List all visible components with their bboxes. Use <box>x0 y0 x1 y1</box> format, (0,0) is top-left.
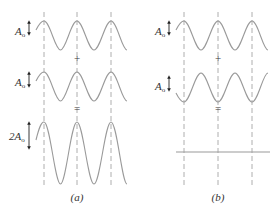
amplitude-label: Ao <box>14 76 26 90</box>
equals-operator: = <box>215 102 221 114</box>
caption-a: (a) <box>71 191 84 204</box>
panel-a: + = Ao Ao 2Ao (a) <box>9 12 127 204</box>
amplitude-label: Ao <box>154 80 166 94</box>
wave-a2 <box>36 72 127 101</box>
wave-a1 <box>36 21 127 50</box>
caption-b: (b) <box>212 191 225 204</box>
plus-operator: + <box>74 52 80 64</box>
amplitude-label: Ao <box>154 25 166 39</box>
plus-operator: + <box>215 52 221 64</box>
wave-b1 <box>176 21 268 50</box>
wave-b2 <box>176 73 268 102</box>
amplitude-label: Ao <box>14 25 26 39</box>
wave-a-sum <box>36 122 127 184</box>
equals-operator: = <box>74 102 80 114</box>
amplitude-label: 2Ao <box>9 130 25 144</box>
interference-diagram: + = Ao Ao 2Ao (a) + = Ao Ao (b) <box>0 0 278 211</box>
panel-b: + = Ao Ao (b) <box>154 12 270 204</box>
